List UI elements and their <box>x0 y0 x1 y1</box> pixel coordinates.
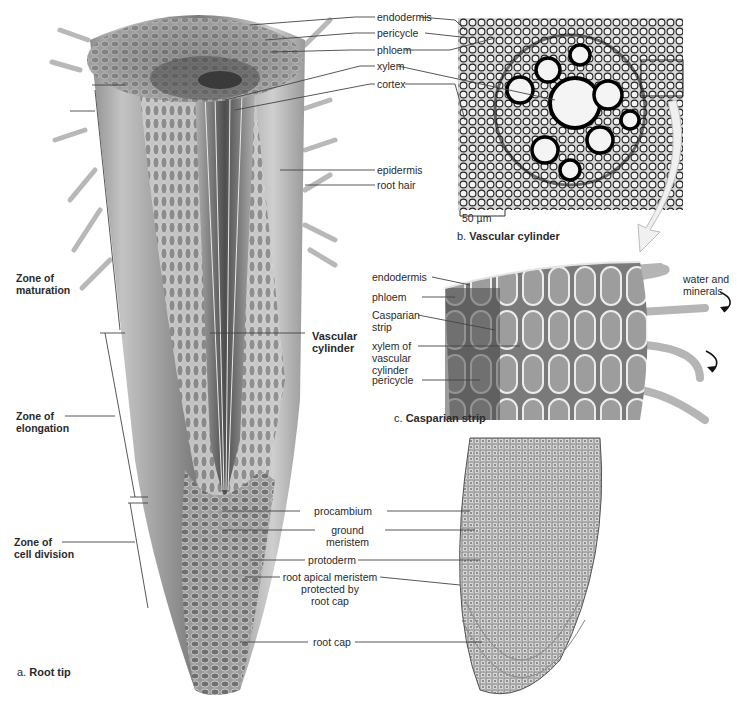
caption-root-tip-letter: a. <box>17 666 26 678</box>
ground-meristem-line2: meristem <box>310 536 385 548</box>
caption-root-tip: a. Root tip <box>17 666 71 678</box>
caption-casparian-strip: c. Casparian strip <box>394 412 486 424</box>
label-endodermis: endodermis <box>377 11 432 23</box>
casparian-strip-line1: Casparian <box>372 309 420 321</box>
label-xylem: xylem <box>377 60 404 72</box>
label-phloem: phloem <box>377 44 411 56</box>
label-pericycle: pericycle <box>377 27 418 39</box>
caption-casparian-strip-title: Casparian strip <box>406 412 486 424</box>
vascular-cylinder-micrograph <box>458 18 683 252</box>
root-tip-longitudinal-section <box>460 438 602 694</box>
root-apical-meristem-line1: root apical meristem <box>280 571 380 583</box>
zone-elongation-line1: Zone of <box>16 410 69 422</box>
zone-cell-division-line1: Zone of <box>14 536 74 548</box>
root-apical-meristem-line2: protected by <box>280 583 380 595</box>
water-and-minerals-line1: water and <box>683 273 729 285</box>
casparian-label-xylem: xylem of vascular cylinder <box>372 340 411 376</box>
zone-elongation-line2: elongation <box>16 422 69 434</box>
caption-vascular-cylinder: b. Vascular cylinder <box>457 230 560 242</box>
vascular-cylinder-line2: cylinder <box>312 342 357 354</box>
casparian-label-pericycle: pericycle <box>372 374 413 386</box>
label-water-and-minerals: water and minerals <box>683 273 729 297</box>
caption-vascular-cylinder-title: Vascular cylinder <box>469 230 560 242</box>
label-root-cap: root cap <box>308 636 356 648</box>
zone-maturation-label: Zone of maturation <box>16 272 70 296</box>
water-and-minerals-line2: minerals <box>683 285 729 297</box>
label-epidermis: epidermis <box>377 164 423 176</box>
casparian-label-casparian-strip: Casparian strip <box>372 309 420 333</box>
label-protoderm: protoderm <box>305 554 359 566</box>
casparian-label-endodermis: endodermis <box>372 271 427 283</box>
scale-bar-label: 50 µm <box>462 212 491 224</box>
caption-casparian-strip-letter: c. <box>394 412 403 424</box>
label-root-hair: root hair <box>377 179 416 191</box>
casparian-strip-line2: strip <box>372 321 420 333</box>
root-apical-meristem-line3: root cap <box>280 595 380 607</box>
label-procambium: procambium <box>300 505 386 517</box>
zone-cell-division-label: Zone of cell division <box>14 536 74 560</box>
label-root-apical-meristem: root apical meristem protected by root c… <box>280 571 380 607</box>
label-cortex: cortex <box>377 78 406 90</box>
xylem-line1: xylem of <box>372 340 411 352</box>
zone-cell-division-line2: cell division <box>14 548 74 560</box>
casparian-label-phloem: phloem <box>372 291 406 303</box>
ground-meristem-line1: ground <box>310 524 385 536</box>
label-vascular-cylinder: Vascular cylinder <box>312 330 357 354</box>
caption-vascular-cylinder-letter: b. <box>457 230 466 242</box>
zone-elongation-label: Zone of elongation <box>16 410 69 434</box>
zone-maturation-line2: maturation <box>16 284 70 296</box>
zone-maturation-line1: Zone of <box>16 272 70 284</box>
xylem-line2: vascular <box>372 352 411 364</box>
vascular-cylinder-line1: Vascular <box>312 330 357 342</box>
label-ground-meristem: ground meristem <box>310 524 385 548</box>
caption-root-tip-title: Root tip <box>29 666 71 678</box>
